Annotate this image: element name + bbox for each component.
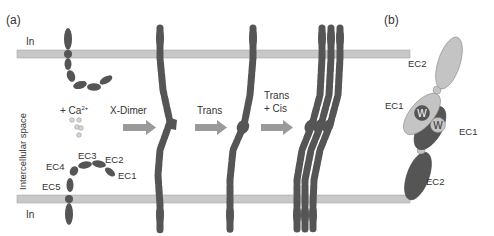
w-label-1: W [417,108,427,119]
ec1-label: EC1 [118,170,136,181]
panel-a-label: (a) [6,13,21,27]
arrow-trans [195,120,227,135]
x-dimer-label: X-Dimer [110,105,147,116]
trans-cis-label-1: Trans [264,90,289,101]
arrow-trans-cis [261,120,293,135]
b-ec2-bottom-label: EC2 [426,176,444,187]
w-label-2: W [433,120,443,131]
panel-b-label: (b) [384,13,399,27]
intercellular-space-label: Intercellular space [17,113,28,190]
ec5-label: EC5 [42,181,60,192]
trans-label: Trans [197,105,222,116]
b-ec2-top-label: EC2 [408,58,426,69]
b-ec1-left-label: EC1 [385,100,403,111]
ec4-label: EC4 [46,161,64,172]
trans-cis-label-2: + Cis [264,103,287,114]
monomer-top [64,28,114,91]
monomer-bottom [65,159,117,225]
cadherin-diagram: (a) In In Intercellular space + Ca2+ EC4… [0,0,494,236]
top-in-label: In [26,36,34,47]
bottom-membrane [17,195,410,203]
ec2-label: EC2 [105,154,123,165]
arrow-x-dimer [123,120,156,135]
bottom-in-label: In [26,209,34,220]
calcium-ions [70,118,84,138]
ec3-label: EC3 [78,150,96,161]
calcium-label: + Ca2+ [60,105,89,116]
b-ec1-right-label: EC1 [459,126,477,137]
top-membrane [17,50,410,58]
